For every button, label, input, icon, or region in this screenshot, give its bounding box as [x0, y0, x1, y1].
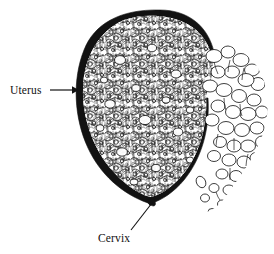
- cervix-label-text: Cervix: [98, 232, 130, 244]
- figure-canvas: Uterus Cervix: [0, 0, 274, 254]
- cervix-leader-line: [131, 203, 152, 230]
- label-uterus: Uterus: [10, 84, 79, 96]
- label-cervix: Cervix: [98, 197, 157, 244]
- anatomical-figure: Uterus Cervix: [0, 0, 274, 254]
- uterus-label-text: Uterus: [10, 84, 42, 96]
